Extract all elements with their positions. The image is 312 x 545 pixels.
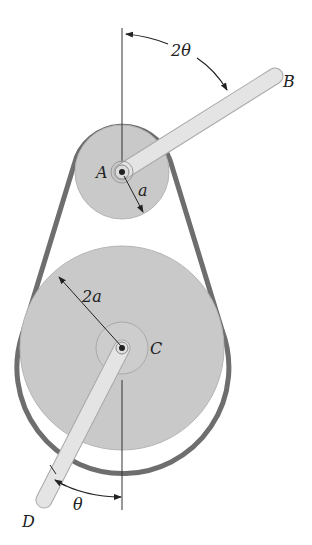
label-point-d: D [21,512,35,531]
angle-2theta-arc-right [197,58,227,90]
angle-2theta-arc-left [126,34,168,44]
label-point-c: C [150,339,162,358]
pin-a [119,169,125,175]
angle-theta-arc [56,481,121,497]
pin-c [116,342,128,354]
label-point-a: A [94,163,108,182]
label-angle-2theta: 2θ [170,41,191,60]
label-point-b: B [282,72,295,91]
label-radius-2a: 2a [81,287,102,306]
label-angle-theta: θ [73,495,83,514]
belt-pulley-diagram: 2θ B A a 2a C D θ [0,0,312,545]
label-radius-a: a [138,181,148,200]
bar-ab [122,76,275,172]
